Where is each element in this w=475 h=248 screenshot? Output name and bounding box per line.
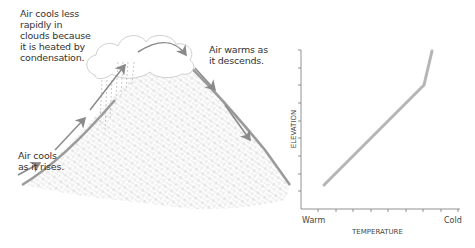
temperature-elevation-line — [324, 51, 432, 185]
cloud — [87, 35, 194, 78]
annotation-line: Air cools less — [20, 8, 91, 19]
y-axis-label: ELEVATION — [290, 99, 298, 159]
annotation-line: Air cools — [18, 150, 64, 161]
annotation-line: as it rises. — [18, 161, 64, 172]
descend-annotation: Air warms as it descends. — [209, 44, 268, 66]
annotation-line: clouds because — [20, 30, 91, 41]
annotation-line: rapidly in — [20, 19, 91, 30]
annotation-line: condensation. — [20, 52, 91, 63]
cloud-annotation: Air cools less rapidly in clouds because… — [20, 8, 91, 63]
x-axis-label: TEMPERATURE — [352, 228, 403, 236]
annotation-line: it descends. — [209, 55, 268, 66]
annotation-line: it is heated by — [20, 41, 91, 52]
rise-annotation: Air cools as it rises. — [18, 150, 64, 172]
x-tick-warm: Warm — [302, 216, 325, 225]
x-tick-cold: Cold — [444, 216, 462, 225]
annotation-line: Air warms as — [209, 44, 268, 55]
